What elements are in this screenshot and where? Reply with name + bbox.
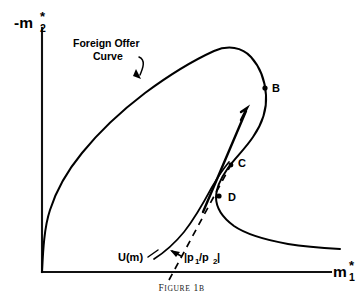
- offer-curve-label-line2: Curve: [93, 50, 123, 62]
- figure-caption-letter: B: [199, 284, 205, 293]
- offer-curve-leader-line: [139, 57, 143, 75]
- x-axis-label: m 1 *: [333, 258, 355, 283]
- point-marker-c: [229, 163, 234, 168]
- price-ratio-slash: /p: [199, 251, 209, 263]
- point-label-d: D: [228, 191, 236, 203]
- figure-caption: FIGURE 1B: [0, 283, 363, 293]
- point-label-b: B: [272, 82, 280, 94]
- offer-curve-diagram: -m 2 * m 1 * B C D: [0, 0, 363, 307]
- foreign-offer-curve-annotation: Foreign Offer Curve: [73, 37, 143, 79]
- point-marker-b: [262, 85, 267, 90]
- x-axis-label-main: m: [333, 263, 347, 280]
- point-marker-d: [216, 193, 221, 198]
- figure-container: -m 2 * m 1 * B C D: [0, 0, 363, 307]
- utility-label: U(m): [118, 251, 143, 263]
- utility-label-group: U(m): [118, 250, 158, 263]
- point-label-c: C: [238, 157, 246, 169]
- y-axis-label-main: -m: [14, 14, 33, 31]
- offer-curve-label-line1: Foreign Offer: [73, 37, 140, 49]
- price-ratio-arrowhead-icon: [170, 250, 180, 257]
- figure-caption-word: IGURE: [164, 284, 190, 293]
- y-axis-label: -m 2 *: [14, 9, 46, 34]
- utility-leader-line: [148, 250, 158, 257]
- price-ratio-close-bracket: |: [217, 251, 220, 263]
- foreign-offer-curve: [42, 48, 340, 272]
- point-markers-group: [216, 85, 267, 198]
- price-ratio-open-bracket: |p: [184, 251, 194, 263]
